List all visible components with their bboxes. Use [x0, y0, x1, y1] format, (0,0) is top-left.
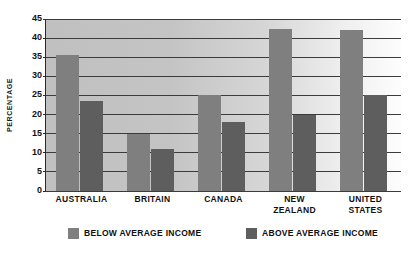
y-tick-label: 30: [16, 70, 42, 80]
legend-color-swatch: [68, 228, 79, 239]
x-category-label-line: ZEALAND: [259, 205, 330, 216]
x-axis-category-labels: AUSTRALIABRITAINCANADANEWZEALANDUNITEDST…: [46, 194, 401, 222]
legend-label: BELOW AVERAGE INCOME: [84, 228, 201, 238]
y-tick-label: 20: [16, 109, 42, 119]
x-category-label-line: NEW: [259, 194, 330, 205]
y-tick-label: 5: [16, 166, 42, 176]
bar: [340, 30, 363, 191]
x-category-label: CANADA: [188, 194, 259, 205]
bar: [222, 122, 245, 191]
chart-legend: BELOW AVERAGE INCOMEABOVE AVERAGE INCOME: [46, 226, 396, 242]
bar-series-group: [46, 19, 401, 191]
bar: [56, 55, 79, 191]
x-category-label-line: BRITAIN: [117, 194, 188, 205]
x-category-label: AUSTRALIA: [46, 194, 117, 205]
bar: [269, 29, 292, 191]
y-axis-tick-labels: 051015202530354045: [12, 19, 42, 191]
bar: [80, 101, 103, 191]
y-tick-label: 15: [16, 128, 42, 138]
y-tick-label: 40: [16, 32, 42, 42]
y-tick-label: 0: [16, 185, 42, 195]
bar: [198, 95, 221, 191]
legend-item: BELOW AVERAGE INCOME: [68, 226, 201, 240]
y-tick-label: 45: [16, 13, 42, 23]
bar: [293, 115, 316, 191]
scan-bottom-margin: [0, 250, 410, 258]
legend-color-swatch: [246, 228, 257, 239]
x-category-label-line: STATES: [330, 205, 401, 216]
bar: [364, 95, 387, 191]
y-tick-label: 35: [16, 51, 42, 61]
bar-chart-figure: PERCENTAGE 051015202530354045 AUSTRALIAB…: [0, 0, 410, 258]
x-category-label: BRITAIN: [117, 194, 188, 205]
x-category-label: UNITEDSTATES: [330, 194, 401, 216]
y-tick-label: 25: [16, 89, 42, 99]
chart-title-clipped: [0, 0, 410, 5]
x-category-label-line: CANADA: [188, 194, 259, 205]
legend-label: ABOVE AVERAGE INCOME: [262, 228, 378, 238]
legend-item: ABOVE AVERAGE INCOME: [246, 226, 378, 240]
bar: [151, 149, 174, 191]
y-tick-label: 10: [16, 147, 42, 157]
x-category-label-line: AUSTRALIA: [46, 194, 117, 205]
x-category-label-line: UNITED: [330, 194, 401, 205]
plot-area: [46, 19, 401, 191]
x-category-label: NEWZEALAND: [259, 194, 330, 216]
bar: [127, 134, 150, 191]
